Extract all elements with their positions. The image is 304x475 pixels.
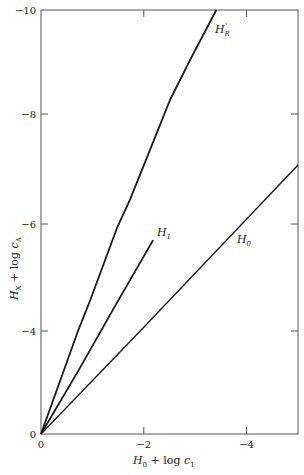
- y-tick-label: 0: [30, 429, 36, 440]
- curve-h1: [41, 240, 153, 434]
- chart: 0−2−40−4−6−8−10 HR' H1 H0 H0 + log c1 HX…: [0, 0, 304, 475]
- curves: [41, 10, 298, 434]
- curve-hr: [41, 10, 216, 434]
- x-tick-label: −2: [136, 439, 151, 450]
- curve-label-hr: HR': [214, 21, 231, 38]
- y-axis-title: HX + log cA: [8, 236, 23, 301]
- curve-label-h1: H1: [156, 226, 171, 241]
- x-tick-label: 0: [38, 439, 44, 450]
- y-tick-label: −4: [21, 326, 36, 337]
- x-tick-label: −4: [239, 439, 254, 450]
- y-tick-label: −10: [15, 5, 36, 16]
- y-tick-label: −8: [21, 109, 36, 120]
- y-tick-label: −6: [21, 219, 36, 230]
- curve-label-h0: H0: [236, 233, 252, 248]
- curve-h0: [41, 165, 298, 434]
- x-axis-title: H0 + log c1: [132, 454, 195, 469]
